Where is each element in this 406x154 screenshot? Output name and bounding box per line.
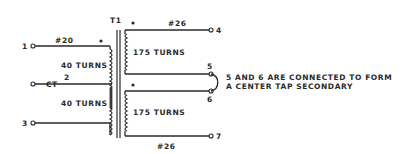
center-tap-jumper (211, 74, 218, 91)
terminal-ct-label: CT (46, 80, 58, 89)
terminal-3 (31, 121, 35, 125)
terminal-2-label: 2 (64, 73, 70, 82)
transformer-core (117, 30, 120, 138)
note-line-1: 5 AND 6 ARE CONNECTED TO FORM (226, 73, 392, 82)
primary-lower-turns: 40 TURNS (61, 99, 108, 108)
transformer-schematic: T1 1 #20 40 TURNS 2 CT 40 TURNS 3 #26 17… (0, 0, 406, 154)
secondary-upper-turns: 175 TURNS (133, 48, 185, 57)
polarity-dot-secondary-lower (131, 83, 134, 86)
polarity-dot-secondary-upper (131, 21, 134, 24)
secondary-top-wire-gauge: #26 (168, 19, 187, 28)
secondary-lower-turns: 175 TURNS (133, 108, 185, 117)
terminal-2-ct (31, 82, 35, 86)
terminal-6-label: 6 (207, 95, 213, 104)
terminal-1 (31, 44, 35, 48)
primary-wire-gauge: #20 (55, 36, 74, 45)
primary-upper-turns: 40 TURNS (61, 61, 108, 70)
terminal-7-label: 7 (216, 132, 222, 141)
terminal-7 (209, 134, 213, 138)
terminal-4 (209, 28, 213, 32)
polarity-dot-primary (99, 39, 102, 42)
transformer-label: T1 (110, 16, 122, 25)
terminal-1-label: 1 (22, 42, 28, 51)
terminal-3-label: 3 (22, 119, 28, 128)
terminal-4-label: 4 (216, 26, 222, 35)
note-line-2: A CENTER TAP SECONDARY (226, 82, 353, 91)
secondary-bottom-wire-gauge: #26 (157, 142, 176, 151)
terminal-5-label: 5 (207, 62, 213, 71)
